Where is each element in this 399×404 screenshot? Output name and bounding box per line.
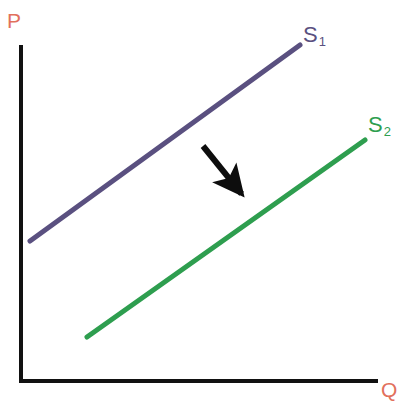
shift-arrow <box>203 146 242 194</box>
diagram-canvas <box>0 0 399 404</box>
supply-curve-s1 <box>30 45 300 241</box>
supply-curve-s2-label: S2 <box>368 114 390 136</box>
s2-label-subscript: 2 <box>384 124 391 139</box>
x-axis-label: Q <box>381 379 398 400</box>
s1-label-subscript: 1 <box>319 34 326 49</box>
s2-label-text: S <box>368 112 383 137</box>
supply-curve-s1-label: S1 <box>303 24 325 46</box>
s1-label-text: S <box>303 22 318 47</box>
supply-shift-diagram: P Q S1 S2 <box>0 0 399 404</box>
y-axis-label: P <box>7 10 21 31</box>
